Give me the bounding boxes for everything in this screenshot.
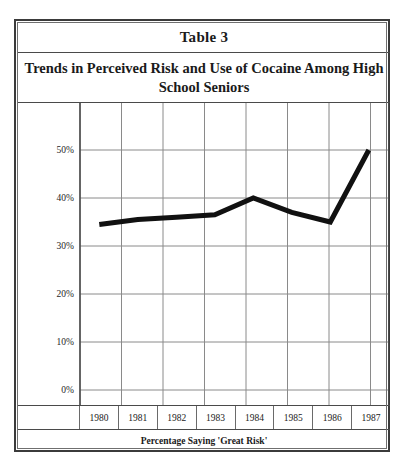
x-tick-1984: 1984 — [236, 406, 275, 429]
x-tick-1982: 1982 — [158, 406, 197, 429]
table-frame: Table 3 Trends in Perceived Risk and Use… — [14, 19, 390, 452]
chart-title: Trends in Perceived Risk and Use of Coca… — [24, 59, 384, 95]
table-caption: Table 3 — [180, 29, 229, 46]
x-tick-1980: 1980 — [80, 406, 119, 429]
chart-footer-row: Percentage Saying 'Great Risk' — [18, 430, 390, 452]
y-tick-20: 20% — [57, 289, 75, 299]
x-axis-year-row: 1980 1981 1982 1983 1984 1985 1986 1987 — [18, 405, 390, 430]
page-root: Table 3 Trends in Perceived Risk and Use… — [0, 0, 403, 469]
horizontal-gridlines — [80, 150, 388, 390]
chart-footer-label: Percentage Saying 'Great Risk' — [141, 436, 268, 446]
x-tick-1987: 1987 — [352, 406, 390, 429]
x-tick-1986: 1986 — [313, 406, 352, 429]
x-tick-1983: 1983 — [197, 406, 236, 429]
y-tick-0: 0% — [61, 385, 74, 395]
y-axis-labels: 50% 40% 30% 20% 10% 0% — [57, 145, 75, 395]
y-tick-30: 30% — [57, 241, 75, 251]
y-tick-50: 50% — [57, 145, 75, 155]
x-tick-1981: 1981 — [119, 406, 158, 429]
line-chart: 50% 40% 30% 20% 10% 0% — [18, 103, 390, 405]
x-tick-1985: 1985 — [274, 406, 313, 429]
vertical-gridlines — [80, 103, 371, 405]
y-tick-40: 40% — [57, 193, 75, 203]
year-row-spacer — [18, 406, 80, 429]
table-caption-row: Table 3 — [18, 23, 390, 53]
data-series-line — [99, 150, 369, 224]
y-tick-10: 10% — [57, 337, 75, 347]
chart-title-row: Trends in Perceived Risk and Use of Coca… — [18, 53, 390, 103]
plot-area: 50% 40% 30% 20% 10% 0% — [18, 103, 390, 405]
